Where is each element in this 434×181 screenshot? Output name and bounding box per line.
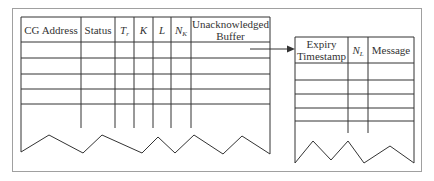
col-nl-label: N — [352, 44, 359, 56]
col-k: K — [134, 24, 153, 36]
col-tr: Tr — [115, 24, 134, 40]
col-nl-sub: L — [360, 50, 364, 58]
col-l: L — [153, 24, 171, 36]
col-expiry-line2: Timestamp — [295, 50, 348, 62]
col-message: Message — [368, 44, 414, 56]
col-nk: NK — [171, 24, 191, 40]
col-unacknowledged-buffer: Unacknowledged Buffer — [191, 18, 270, 42]
col-expiry-line1: Expiry — [295, 38, 348, 50]
arrow-head-icon — [287, 46, 295, 53]
col-expiry-timestamp: Expiry Timestamp — [295, 38, 348, 62]
col-cg-address: CG Address — [21, 24, 81, 36]
col-nk-sub: K — [182, 30, 187, 38]
col-status: Status — [81, 24, 115, 36]
col-unack-line1: Unacknowledged — [191, 18, 270, 30]
col-unack-line2: Buffer — [191, 30, 270, 42]
col-tr-sub: r — [126, 30, 129, 38]
col-nl: NL — [348, 44, 368, 60]
